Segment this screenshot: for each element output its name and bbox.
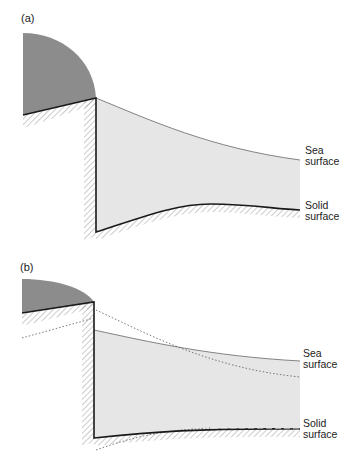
solid-surface-label-a: Solid surface — [305, 200, 339, 222]
sea-surface-label-line2: surface — [303, 359, 337, 370]
panel-a-label: (a) — [21, 12, 34, 24]
sea-surface-label-b: Sea surface — [303, 348, 337, 370]
sea-surface-label-line2: surface — [305, 156, 339, 167]
bedrock-hatch-cliff — [84, 98, 96, 240]
panel-b-label: (b) — [20, 261, 33, 273]
sea-surface-label-a: Sea surface — [305, 145, 339, 167]
solid-surface-label-line2: surface — [303, 429, 337, 440]
ocean-water — [94, 330, 300, 438]
solid-surface-label-b: Solid surface — [303, 418, 337, 440]
panel-b — [22, 279, 300, 450]
solid-surface-label-line2: surface — [305, 211, 339, 222]
diagram-canvas — [0, 0, 357, 466]
panel-a — [23, 33, 300, 240]
bedrock-hatch-cliff — [82, 302, 94, 446]
